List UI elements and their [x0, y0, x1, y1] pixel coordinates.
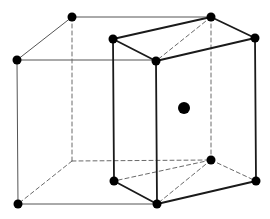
prism-edge	[114, 181, 157, 204]
crystal-unit-cell-diagram	[0, 0, 270, 219]
cube-edge	[17, 17, 72, 60]
atom-body-center	[178, 102, 190, 114]
cube-hidden-edge	[72, 160, 211, 161]
prism-edge	[113, 17, 211, 39]
cube-edge	[17, 60, 18, 204]
atom-cube-top-back-right	[207, 13, 216, 22]
atom-cube-top-front-left	[13, 56, 22, 65]
atom-prism-bottom-right	[252, 177, 261, 186]
prism-edge	[113, 39, 114, 181]
prism-edge	[211, 17, 255, 38]
prism-hidden-edge	[211, 160, 256, 181]
atom-cube-top-back-left	[68, 13, 77, 22]
atom-prism-top-left	[109, 35, 118, 44]
prism-edge	[255, 38, 256, 181]
prism-edge	[156, 61, 157, 204]
prism-hidden-edge	[114, 160, 211, 181]
atom-prism-top-front	[152, 57, 161, 66]
atom-prism-top-right	[251, 34, 260, 43]
atom-prism-bottom-front	[153, 200, 162, 209]
atom-prism-bottom-left	[110, 177, 119, 186]
prism-edge	[113, 39, 156, 61]
atom-prism-bottom-back	[207, 156, 216, 165]
atom-cube-bottom-front-left	[14, 200, 23, 209]
cube-hidden-edge	[18, 161, 72, 204]
